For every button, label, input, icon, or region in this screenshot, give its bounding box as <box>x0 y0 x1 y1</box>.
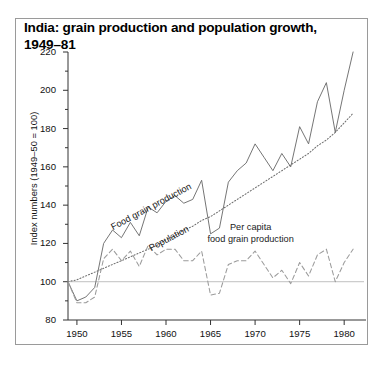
series-annotation-3: Per capitafood grain production <box>186 222 316 245</box>
y-tick-label: 160 <box>30 161 56 172</box>
y-tick-label: 140 <box>30 199 56 210</box>
x-tick-label: 1950 <box>57 328 97 339</box>
y-tick-label: 180 <box>30 123 56 134</box>
x-tick-label: 1975 <box>280 328 320 339</box>
x-tick-label: 1965 <box>191 328 231 339</box>
x-tick-label: 1955 <box>101 328 141 339</box>
annotation-line: Per capita <box>186 222 316 234</box>
chart-title: India: grain production and population g… <box>24 20 354 53</box>
y-tick-label: 100 <box>30 276 56 287</box>
y-tick-label: 80 <box>30 314 56 325</box>
y-tick-label: 120 <box>30 237 56 248</box>
y-tick-label: 200 <box>30 84 56 95</box>
chart-figure: India: grain production and population g… <box>0 0 383 365</box>
x-tick-label: 1960 <box>146 328 186 339</box>
annotation-line: food grain production <box>186 234 316 246</box>
y-tick-label: 220 <box>30 46 56 57</box>
figure-frame <box>15 18 368 345</box>
x-tick-label: 1980 <box>324 328 364 339</box>
x-tick-label: 1970 <box>235 328 275 339</box>
